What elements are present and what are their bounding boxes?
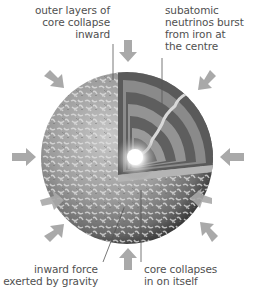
arrow-bottom-left-icon [44,224,64,242]
label-gravity: inward force exerted by gravity [0,263,98,287]
arrow-top-right-icon [198,70,216,90]
arrow-left-icon [12,148,36,166]
arrow-top-icon [119,40,137,62]
label-neutrinos: subatomic neutrinos burst from iron at t… [165,4,257,52]
arrow-top-left-icon [44,70,64,88]
label-outer-layers: outer layers of core collapse inward [26,4,110,40]
supernova-diagram: outer layers of core collapse inward sub… [0,0,257,292]
label-core-collapse: core collapses in on itself [144,263,244,287]
arrow-bottom-right-icon [200,222,218,242]
arrow-right-icon [220,148,244,166]
arrow-bottom-icon [119,248,137,270]
